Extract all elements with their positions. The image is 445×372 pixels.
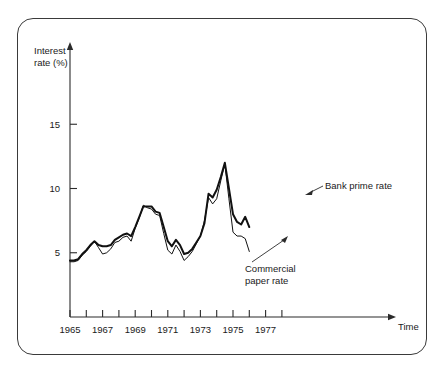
x-tick-label: 1967 [92, 324, 113, 335]
y-tick-label: 10 [49, 183, 60, 194]
ticks-group [70, 124, 282, 317]
bank-prime-arrow-icon [305, 190, 313, 195]
commercial-paper-label-line1: Commercial [245, 263, 296, 274]
commercial-paper-arrow-icon [281, 236, 288, 243]
y-tick-label: 15 [49, 119, 60, 130]
bank-prime-rate-label: Bank prime rate [325, 180, 392, 191]
y-axis-title-line2: rate (%) [34, 57, 68, 68]
y-axis-title-line1: Interest [34, 45, 66, 56]
commercial-paper-label-line2: paper rate [245, 275, 288, 286]
x-tick-label: 1965 [59, 324, 80, 335]
x-axis-title: Time [398, 321, 419, 332]
y-axis-arrow-icon [67, 42, 73, 50]
x-tick-label: 1973 [190, 324, 211, 335]
chart-plot: 510151965196719691971197319751977 Intere… [0, 0, 445, 372]
x-tick-label: 1969 [125, 324, 146, 335]
commercial-paper-leader-line [252, 240, 284, 262]
x-tick-label: 1971 [157, 324, 178, 335]
x-axis-arrow-icon [388, 314, 396, 320]
bank-prime-leader-line [311, 186, 323, 192]
series-group [70, 163, 249, 262]
x-tick-label: 1977 [255, 324, 276, 335]
x-tick-label: 1975 [222, 324, 243, 335]
figure-container: 510151965196719691971197319751977 Intere… [0, 0, 445, 372]
y-tick-label: 5 [55, 247, 60, 258]
